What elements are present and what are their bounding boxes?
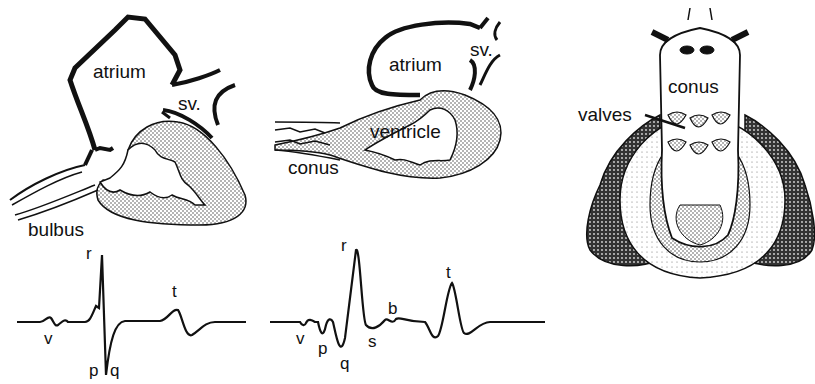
heart-right-drawing [587, 8, 815, 278]
ecg-middle-label-s: s [368, 333, 377, 350]
middle-conus [275, 122, 340, 123]
ecg-left-label-v: v [44, 330, 53, 347]
right-opening-right [700, 46, 714, 54]
ecg-middle-label-r: r [341, 237, 347, 254]
label-right-valves: valves [578, 105, 632, 124]
label-right-conus: conus [668, 77, 719, 96]
ecg-left-label-q: q [110, 362, 119, 379]
right-opening-left [680, 46, 694, 54]
ecg-middle-label-q: q [340, 355, 349, 372]
label-middle-ventricle: ventricle [370, 122, 441, 141]
label-left-bulbus: bulbus [28, 220, 84, 239]
ecg-left-trace [17, 255, 246, 375]
label-left-sv: sv. [178, 94, 201, 113]
ecg-middle-label-v: v [296, 330, 305, 347]
ecg-left-label-t: t [172, 283, 177, 300]
ecg-left-label-p: p [89, 362, 98, 379]
ecg-middle-label-p: p [318, 340, 327, 357]
heart-left-drawing [10, 17, 246, 225]
ecg-left-label-r: r [86, 245, 92, 262]
label-middle-atrium: atrium [389, 55, 442, 74]
label-middle-conus: conus [288, 158, 339, 177]
ecg-middle-trace [270, 250, 545, 347]
label-left-atrium: atrium [93, 62, 146, 81]
label-middle-sv: sv. [470, 40, 493, 59]
ecg-middle-label-t: t [446, 264, 451, 281]
ecg-middle-label-b: b [388, 300, 397, 317]
left-bulbus [10, 165, 85, 200]
heart-middle-drawing [275, 18, 501, 178]
